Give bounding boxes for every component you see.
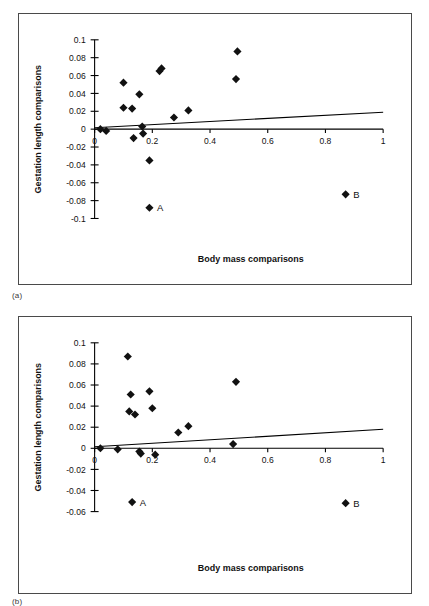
y-tick-label: 0.02 bbox=[69, 422, 86, 432]
data-point bbox=[129, 134, 137, 142]
y-tick-label: 0 bbox=[81, 443, 86, 453]
data-point bbox=[124, 352, 132, 360]
y-tick-label: 0.08 bbox=[69, 359, 86, 369]
data-point bbox=[233, 47, 241, 55]
x-tick-label: 0.4 bbox=[204, 455, 216, 465]
y-tick-label: 0.08 bbox=[69, 53, 86, 63]
data-point bbox=[119, 104, 127, 112]
scatter-plot-b: 00.20.40.60.81-0.06-0.04-0.0200.020.040.… bbox=[19, 317, 411, 593]
data-point bbox=[145, 156, 153, 164]
y-tick-label: -0.06 bbox=[66, 178, 86, 188]
data-point bbox=[184, 422, 192, 430]
point-label: A bbox=[140, 497, 147, 508]
caption-a: (a) bbox=[12, 291, 22, 300]
y-axis-title: Gestation length comparisons bbox=[33, 65, 43, 194]
data-point-labeled: B bbox=[342, 189, 360, 200]
x-tick-label: 0.4 bbox=[204, 136, 216, 146]
x-tick-label: 0 bbox=[92, 455, 97, 465]
y-tick-label: 0.06 bbox=[69, 380, 86, 390]
point-label: B bbox=[353, 189, 359, 200]
x-tick-label: 0.8 bbox=[319, 455, 331, 465]
chart-panel-a: 00.20.40.60.81-0.1-0.08-0.06-0.04-0.0200… bbox=[18, 13, 412, 285]
scatter-plot-a: 00.20.40.60.81-0.1-0.08-0.06-0.04-0.0200… bbox=[19, 14, 411, 284]
y-axis-title: Gestation length comparisons bbox=[33, 363, 43, 492]
data-point bbox=[232, 378, 240, 386]
x-tick-label: 0 bbox=[92, 136, 97, 146]
x-tick-label: 0.6 bbox=[262, 136, 274, 146]
data-point-labeled: B bbox=[342, 498, 360, 509]
x-tick-label: 1 bbox=[381, 455, 386, 465]
y-tick-label: -0.02 bbox=[66, 142, 86, 152]
data-point bbox=[96, 444, 104, 452]
point-label: B bbox=[353, 498, 359, 509]
x-tick-label: 0.6 bbox=[262, 455, 274, 465]
data-point bbox=[135, 90, 143, 98]
data-point bbox=[184, 106, 192, 114]
y-tick-label: -0.04 bbox=[66, 160, 86, 170]
trend-line bbox=[95, 112, 384, 128]
y-tick-label: 0.04 bbox=[69, 401, 86, 411]
x-axis-title: Body mass comparisons bbox=[198, 563, 304, 573]
y-tick-label: -0.08 bbox=[66, 196, 86, 206]
data-point bbox=[145, 387, 153, 395]
y-tick-label: -0.1 bbox=[71, 214, 86, 224]
y-tick-label: 0.1 bbox=[74, 35, 86, 45]
y-tick-label: 0.1 bbox=[74, 338, 86, 348]
data-point bbox=[119, 79, 127, 87]
y-tick-label: -0.04 bbox=[66, 486, 86, 496]
x-axis-title: Body mass comparisons bbox=[198, 254, 304, 264]
trend-line bbox=[95, 429, 384, 446]
data-point-labeled: A bbox=[128, 497, 147, 508]
x-tick-label: 0.8 bbox=[319, 136, 331, 146]
x-tick-label: 1 bbox=[381, 136, 386, 146]
data-point bbox=[229, 440, 237, 448]
data-point bbox=[128, 105, 136, 113]
chart-panel-b: 00.20.40.60.81-0.06-0.04-0.0200.020.040.… bbox=[18, 316, 412, 594]
data-point bbox=[170, 113, 178, 121]
point-label: A bbox=[157, 202, 164, 213]
y-tick-label: 0.06 bbox=[69, 71, 86, 81]
data-point-labeled: A bbox=[145, 202, 164, 213]
caption-b: (b) bbox=[12, 597, 22, 606]
data-point bbox=[127, 390, 135, 398]
y-tick-label: 0.02 bbox=[69, 106, 86, 116]
data-point bbox=[174, 428, 182, 436]
data-point bbox=[114, 445, 122, 453]
data-point bbox=[148, 404, 156, 412]
y-tick-label: -0.02 bbox=[66, 465, 86, 475]
y-tick-label: 0 bbox=[81, 124, 86, 134]
y-tick-label: -0.06 bbox=[66, 507, 86, 517]
y-tick-label: 0.04 bbox=[69, 89, 86, 99]
data-point bbox=[232, 75, 240, 83]
x-tick-label: 0.2 bbox=[146, 136, 158, 146]
